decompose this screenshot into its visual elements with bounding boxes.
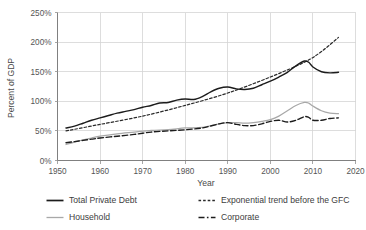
data-series bbox=[66, 37, 338, 144]
series-exponential-trend bbox=[66, 37, 338, 131]
x-tick-label: 2000 bbox=[261, 167, 280, 176]
x-axis-title: Year bbox=[197, 178, 215, 188]
x-axis-tick-labels: 19501960197019801990200020102020 bbox=[48, 167, 365, 176]
legend-label: Exponential trend before the GFC bbox=[221, 196, 350, 205]
series-corporate bbox=[66, 117, 338, 143]
legend-item[interactable]: Household bbox=[46, 213, 198, 222]
y-tick-label: 200% bbox=[31, 38, 52, 47]
x-tick-label: 1980 bbox=[176, 167, 195, 176]
y-tick-label: 50% bbox=[35, 127, 51, 136]
series-total-private-debt bbox=[66, 61, 338, 128]
legend-item[interactable]: Total Private Debt bbox=[46, 196, 198, 205]
chart-container: 0%50%100%150%200%250% 195019601970198019… bbox=[0, 0, 366, 230]
x-tick-label: 2010 bbox=[304, 167, 323, 176]
x-tick-label: 1960 bbox=[91, 167, 110, 176]
chart-legend: Total Private DebtExponential trend befo… bbox=[0, 192, 366, 230]
y-tick-label: 250% bbox=[31, 9, 52, 18]
x-tick-label: 1990 bbox=[219, 167, 238, 176]
legend-swatch-dashed-black bbox=[198, 213, 216, 222]
legend-label: Corporate bbox=[221, 213, 259, 222]
y-tick-label: 150% bbox=[31, 68, 52, 77]
legend-label: Household bbox=[69, 213, 110, 222]
y-axis-tick-labels: 0%50%100%150%200%250% bbox=[31, 9, 52, 166]
x-tick-label: 1970 bbox=[134, 167, 153, 176]
legend-item[interactable]: Exponential trend before the GFC bbox=[198, 196, 360, 205]
legend-label: Total Private Debt bbox=[69, 196, 137, 205]
y-tick-label: 100% bbox=[31, 97, 52, 106]
tick-marks bbox=[55, 13, 356, 164]
y-axis-title: Percent of GDP bbox=[6, 58, 16, 118]
legend-swatch-solid-grey bbox=[46, 213, 64, 222]
legend-item[interactable]: Corporate bbox=[198, 213, 360, 222]
legend-swatch-solid-black bbox=[46, 196, 64, 205]
legend-swatch-dotted-dash bbox=[198, 196, 216, 205]
x-tick-label: 1950 bbox=[48, 167, 67, 176]
y-tick-label: 0% bbox=[40, 157, 52, 166]
x-tick-label: 2020 bbox=[346, 167, 365, 176]
